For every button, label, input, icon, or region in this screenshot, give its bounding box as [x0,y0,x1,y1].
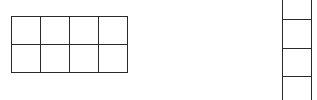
grid-cell [70,17,99,45]
left-grid-2x4 [11,16,128,73]
grid-row [12,17,128,45]
grid-cell [41,17,70,45]
column-divider [283,76,311,77]
column-divider [283,19,311,20]
right-column-cells [282,0,312,100]
grid-row [12,45,128,73]
grid-cell [70,45,99,73]
grid-cell [99,17,128,45]
column-divider [283,48,311,49]
grid-cell [12,45,41,73]
grid-cell [41,45,70,73]
grid-cell [12,17,41,45]
grid-cell [99,45,128,73]
